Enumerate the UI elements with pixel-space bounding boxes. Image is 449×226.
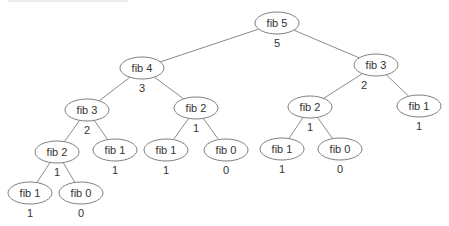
- tree-node: fib 21: [174, 97, 218, 134]
- node-label: fib 1: [20, 187, 41, 199]
- node-return-value: 1: [307, 121, 313, 133]
- tree-edge: [99, 77, 130, 101]
- node-return-value: 0: [337, 163, 343, 175]
- tree-edge: [203, 118, 218, 139]
- tree-node: fib 55: [255, 12, 299, 49]
- tree-edge: [64, 120, 79, 141]
- tree-edge: [173, 118, 188, 139]
- node-return-value: 1: [416, 120, 422, 132]
- node-return-value: 0: [78, 207, 84, 219]
- tree-edge: [386, 75, 409, 97]
- node-return-value: 0: [223, 164, 229, 176]
- tree-edge: [63, 163, 75, 183]
- node-return-value: 2: [361, 79, 367, 91]
- tree-nodes: fib 55fib 43fib 32fib 32fib 21fib 21fib …: [8, 12, 441, 219]
- node-return-value: 2: [84, 124, 90, 136]
- tree-node: fib 11: [260, 138, 304, 175]
- node-label: fib 5: [267, 17, 288, 29]
- tree-node: fib 32: [65, 99, 109, 136]
- node-label: fib 2: [300, 101, 321, 113]
- tree-edge: [317, 117, 332, 138]
- node-label: fib 0: [216, 144, 237, 156]
- node-label: fib 1: [156, 144, 177, 156]
- node-label: fib 1: [409, 100, 430, 112]
- tree-edge: [294, 30, 359, 58]
- node-return-value: 5: [274, 37, 280, 49]
- node-label: fib 4: [132, 62, 153, 74]
- tree-edge: [324, 74, 363, 99]
- tree-node: fib 21: [35, 141, 79, 178]
- tree-edge: [289, 117, 303, 138]
- node-return-value: 3: [139, 82, 145, 94]
- node-label: fib 1: [105, 144, 126, 156]
- node-return-value: 1: [163, 164, 169, 176]
- node-label: fib 3: [77, 104, 98, 116]
- tree-node: fib 00: [59, 182, 103, 219]
- tree-edge: [94, 120, 107, 139]
- node-return-value: 1: [27, 207, 33, 219]
- node-label: fib 0: [330, 143, 351, 155]
- tree-edge: [160, 29, 258, 62]
- tree-node: fib 11: [397, 95, 441, 132]
- node-label: fib 3: [366, 59, 387, 71]
- tree-edge: [154, 77, 183, 99]
- node-label: fib 0: [71, 187, 92, 199]
- node-label: fib 2: [47, 146, 68, 158]
- tree-node: fib 32: [354, 54, 398, 91]
- node-return-value: 1: [193, 122, 199, 134]
- node-label: fib 1: [272, 143, 293, 155]
- tree-node: fib 21: [288, 96, 332, 133]
- tree-node: fib 11: [8, 182, 52, 219]
- fibonacci-tree-diagram: fib 55fib 43fib 32fib 32fib 21fib 21fib …: [0, 0, 449, 226]
- tree-node: fib 11: [144, 139, 188, 176]
- tree-node: fib 43: [120, 57, 164, 94]
- node-return-value: 1: [112, 164, 118, 176]
- tree-node: fib 11: [93, 139, 137, 176]
- tree-edge: [37, 162, 50, 182]
- tree-node: fib 00: [318, 138, 362, 175]
- node-label: fib 2: [186, 102, 207, 114]
- node-return-value: 1: [279, 163, 285, 175]
- node-return-value: 1: [54, 166, 60, 178]
- tree-node: fib 00: [204, 139, 248, 176]
